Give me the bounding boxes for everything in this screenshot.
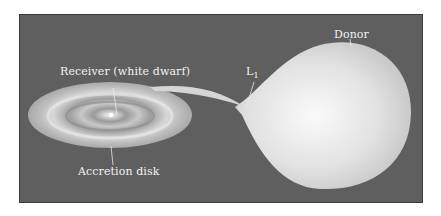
l1-label: L1 <box>246 65 259 80</box>
donor-label: Donor <box>334 28 369 41</box>
disk-pointer <box>111 146 113 165</box>
white-dwarf <box>109 113 113 117</box>
accretion-disk-label: Accretion disk <box>78 165 159 178</box>
diagram-frame: Receiver (white dwarf) L1 Donor Accretio… <box>19 14 423 203</box>
donor-star <box>235 42 411 189</box>
receiver-label: Receiver (white dwarf) <box>60 65 190 78</box>
